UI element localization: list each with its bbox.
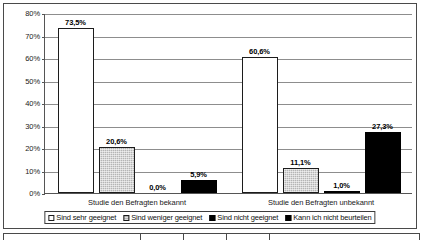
bar-value-label: 73,5% — [65, 18, 86, 27]
y-axis-tick — [42, 194, 45, 195]
bar-value-label: 27,3% — [372, 122, 393, 131]
x-axis-category-label: Studie den Befragten bekannt — [88, 198, 186, 207]
gridline — [45, 14, 412, 15]
y-axis-tick — [42, 149, 45, 150]
y-axis-tick — [42, 37, 45, 38]
bar: 11,1% — [283, 168, 319, 193]
chart-frame: 0%10%20%30%40%50%60%70%80%73,5%20,6%0,0%… — [3, 3, 417, 229]
chart-legend: Sind sehr geeignetSind weniger geeignetS… — [44, 211, 375, 224]
bar-value-label: 11,1% — [290, 158, 310, 167]
bar-value-label: 1,0% — [333, 181, 350, 190]
gridline — [45, 37, 412, 38]
gridline — [45, 104, 412, 105]
y-axis-tick — [42, 127, 45, 128]
y-axis-tick — [42, 104, 45, 105]
y-axis-tick-label: 50% — [25, 78, 40, 86]
table-column-separator — [226, 234, 227, 240]
x-axis-category-label: Studie den Befragten unbekannt — [268, 198, 374, 207]
legend-swatch-icon — [209, 215, 215, 221]
y-axis-tick-label: 20% — [25, 145, 40, 153]
plot-area: 0%10%20%30%40%50%60%70%80%73,5%20,6%0,0%… — [44, 14, 412, 194]
y-axis-tick-label: 70% — [25, 33, 40, 41]
legend-label: Sind weniger geeignet — [131, 213, 202, 222]
legend-swatch-icon — [123, 215, 129, 221]
legend-item: Sind nicht geeignet — [209, 213, 278, 222]
bottom-table-fragment — [3, 233, 420, 240]
bar-value-label: 5,9% — [190, 170, 207, 179]
legend-swatch-icon — [285, 215, 291, 221]
y-axis-tick — [42, 82, 45, 83]
table-column-separator — [140, 234, 141, 240]
y-axis-tick-label: 30% — [25, 123, 40, 131]
y-axis-tick-label: 40% — [25, 100, 40, 108]
gridline — [45, 127, 412, 128]
bar-value-label: 20,6% — [106, 137, 127, 146]
gridline — [45, 82, 412, 83]
legend-label: Kann ich nicht beurteilen — [293, 213, 371, 222]
gridline — [45, 59, 412, 60]
y-axis-tick-label: 60% — [25, 55, 40, 63]
bar: 20,6% — [99, 147, 135, 193]
bar-value-label: 60,6% — [249, 47, 270, 56]
legend-item: Sind weniger geeignet — [123, 213, 202, 222]
bar: 5,9% — [181, 180, 217, 193]
bar: 1,0% — [324, 191, 360, 193]
legend-label: Sind nicht geeignet — [217, 213, 278, 222]
table-column-separator — [183, 234, 184, 240]
y-axis-tick — [42, 172, 45, 173]
bar: 60,6% — [242, 57, 278, 193]
figure: 0%10%20%30%40%50%60%70%80%73,5%20,6%0,0%… — [0, 0, 422, 240]
y-axis-tick — [42, 59, 45, 60]
y-axis-tick-label: 80% — [25, 10, 40, 18]
y-axis-tick-label: 0% — [29, 190, 40, 198]
y-axis-tick — [42, 14, 45, 15]
legend-label: Sind sehr geeignet — [56, 213, 116, 222]
bar-value-label: 0,0% — [149, 183, 166, 192]
legend-item: Kann ich nicht beurteilen — [285, 213, 371, 222]
legend-item: Sind sehr geeignet — [48, 213, 116, 222]
bar: 27,3% — [365, 132, 401, 193]
table-column-separator — [269, 234, 270, 240]
y-axis-tick-label: 10% — [25, 168, 40, 176]
bar: 73,5% — [58, 28, 94, 193]
legend-swatch-icon — [48, 215, 54, 221]
